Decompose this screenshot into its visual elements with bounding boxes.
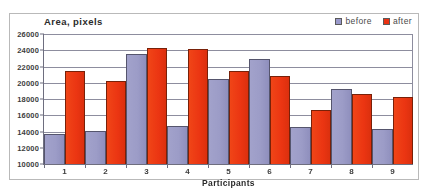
- bar-after-3[interactable]: [147, 48, 168, 164]
- bar-after-8[interactable]: [352, 94, 373, 164]
- y-axis-tick-label: 10000: [17, 160, 39, 169]
- x-axis-tick-label: 2: [85, 167, 126, 176]
- bar-before-1[interactable]: [44, 134, 65, 164]
- bar-group: [167, 34, 208, 164]
- x-axis-tick-label: 5: [208, 167, 249, 176]
- x-axis-tick-label: 7: [290, 167, 331, 176]
- x-axis-tick-label: 9: [372, 167, 413, 176]
- legend-swatch-before-icon: [335, 18, 342, 25]
- bar-group: [331, 34, 372, 164]
- y-axis-tick-label: 12000: [17, 143, 39, 152]
- x-axis-tick-label: 4: [167, 167, 208, 176]
- y-axis-tick-label: 16000: [17, 111, 39, 120]
- bar-after-5[interactable]: [229, 71, 250, 164]
- bar-before-2[interactable]: [85, 131, 106, 164]
- x-axis-line: [43, 164, 413, 165]
- x-axis-tick-labels: 123456789: [44, 167, 413, 176]
- bar-groups: [44, 34, 413, 164]
- bar-group: [249, 34, 290, 164]
- x-axis-tick-label: 8: [331, 167, 372, 176]
- bar-after-1[interactable]: [65, 71, 86, 164]
- chart-title: Area, pixels: [44, 16, 103, 27]
- y-axis-tick-label: 18000: [17, 95, 39, 104]
- bar-group: [44, 34, 85, 164]
- x-axis-title: Participants: [44, 178, 413, 188]
- y-axis-tick-label: 14000: [17, 127, 39, 136]
- bar-group: [372, 34, 413, 164]
- plot-area: 1000012000140001600018000200002200024000…: [44, 34, 413, 164]
- bar-group: [208, 34, 249, 164]
- bar-after-6[interactable]: [270, 76, 291, 164]
- legend-label-before: before: [345, 16, 372, 26]
- legend-label-after: after: [393, 16, 412, 26]
- bar-before-8[interactable]: [331, 89, 352, 164]
- y-axis-tick-label: 24000: [17, 46, 39, 55]
- x-axis-tick-label: 1: [44, 167, 85, 176]
- bar-after-2[interactable]: [106, 81, 127, 164]
- bar-before-5[interactable]: [208, 79, 229, 164]
- legend-item-after[interactable]: after: [383, 16, 412, 26]
- y-axis-tick-label: 26000: [17, 30, 39, 39]
- bar-before-6[interactable]: [249, 59, 270, 164]
- x-axis-tick-label: 6: [249, 167, 290, 176]
- x-axis-tick-label: 3: [126, 167, 167, 176]
- y-axis-tick-label: 22000: [17, 62, 39, 71]
- bar-chart: Area, pixels before after 10000120001400…: [9, 13, 419, 180]
- bar-after-4[interactable]: [188, 49, 209, 164]
- legend-swatch-after-icon: [383, 18, 390, 25]
- bar-group: [290, 34, 331, 164]
- bar-before-9[interactable]: [372, 129, 393, 164]
- bar-before-7[interactable]: [290, 127, 311, 164]
- bar-before-4[interactable]: [167, 126, 188, 164]
- legend-item-before[interactable]: before: [335, 16, 372, 26]
- bar-after-9[interactable]: [393, 97, 414, 164]
- bar-after-7[interactable]: [311, 110, 332, 164]
- bar-before-3[interactable]: [126, 54, 147, 165]
- y-axis-tick-label: 20000: [17, 78, 39, 87]
- bar-group: [85, 34, 126, 164]
- bar-group: [126, 34, 167, 164]
- chart-legend: before after: [335, 16, 412, 26]
